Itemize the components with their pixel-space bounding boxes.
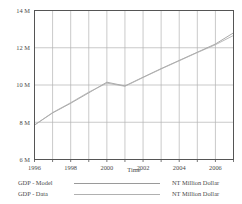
legend-series-unit: NT Million Dollar — [172, 178, 242, 188]
y-tick-label: 14 M — [16, 7, 30, 14]
chart-legend: GDP - Model NT Million Dollar GDP - Data… — [0, 176, 242, 204]
chart-figure: 14 M12 M10 M8 M6 M 199619982000200220042… — [0, 0, 242, 176]
y-tick-label: 10 M — [16, 81, 30, 88]
x-axis-tick-labels: 199619982000200220042006 — [28, 164, 222, 171]
gridlines — [35, 11, 234, 160]
legend-line-swatch — [74, 189, 160, 199]
x-tick-label: 1996 — [28, 164, 41, 171]
y-axis-tick-labels: 14 M12 M10 M8 M6 M — [16, 7, 30, 163]
y-tick-label: 8 M — [20, 119, 31, 126]
y-tick-label: 6 M — [20, 156, 31, 163]
legend-line-swatch — [74, 178, 160, 188]
y-tick-label: 12 M — [16, 44, 30, 51]
legend-series-unit: NT Million Dollar — [172, 189, 242, 199]
x-tick-label: 2006 — [209, 164, 222, 171]
chart-screenshot: 14 M12 M10 M8 M6 M 199619982000200220042… — [0, 0, 242, 204]
x-axis-title: Time — [127, 166, 140, 173]
x-tick-label: 2004 — [173, 164, 187, 171]
line-chart[interactable]: 14 M12 M10 M8 M6 M 199619982000200220042… — [0, 0, 242, 176]
legend-row[interactable]: GDP - Data NT Million Dollar — [0, 188, 242, 200]
x-tick-label: 2000 — [100, 164, 113, 171]
x-tick-label: 1998 — [64, 164, 77, 171]
series-lines — [35, 33, 234, 125]
